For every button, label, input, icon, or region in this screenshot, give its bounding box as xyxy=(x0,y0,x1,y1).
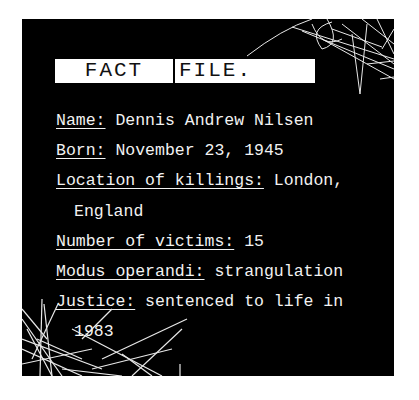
fact-key: Modus operandi: xyxy=(56,262,205,281)
fact-location: Location of killings: London, xyxy=(56,169,343,199)
fact-key: Number of victims: xyxy=(56,232,234,251)
fact-key: Justice: xyxy=(56,292,135,311)
label-file: FILE. xyxy=(175,59,252,83)
fact-value: London, xyxy=(264,171,343,190)
fact-value: strangulation xyxy=(205,262,344,281)
fact-justice-continued: 1983 xyxy=(56,320,343,350)
fact-key: Name: xyxy=(56,111,106,130)
fact-key: Born: xyxy=(56,141,106,160)
label-fact: FACT xyxy=(55,59,175,83)
fact-value: November 23, 1945 xyxy=(106,141,284,160)
fact-file-label: FACT FILE. xyxy=(55,59,315,83)
fact-born: Born: November 23, 1945 xyxy=(56,139,343,169)
fact-victims: Number of victims: 15 xyxy=(56,230,343,260)
fact-value: sentenced to life in xyxy=(135,292,343,311)
fact-name: Name: Dennis Andrew Nilsen xyxy=(56,109,343,139)
fact-file-card: FACT FILE. Name: Dennis Andrew Nilsen Bo… xyxy=(22,19,394,376)
fact-modus-operandi: Modus operandi: strangulation xyxy=(56,260,343,290)
fact-key: Location of killings: xyxy=(56,171,264,190)
fact-value: 15 xyxy=(234,232,264,251)
fact-value: Dennis Andrew Nilsen xyxy=(106,111,314,130)
fact-justice: Justice: sentenced to life in xyxy=(56,290,343,320)
facts-list: Name: Dennis Andrew Nilsen Born: Novembe… xyxy=(56,109,343,351)
fact-location-continued: England xyxy=(56,200,343,230)
